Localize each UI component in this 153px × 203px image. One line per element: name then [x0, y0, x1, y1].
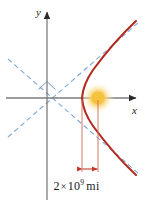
dimension-label: 2×109mi [0, 179, 153, 194]
orbit-figure: x y 2×109mi [0, 0, 153, 203]
dimension-mantissa: 2 [53, 179, 59, 193]
x-axis-label: x [131, 104, 137, 116]
dimension-unit: mi [84, 179, 99, 193]
y-axis-label: y [35, 6, 41, 18]
figure-canvas: x y [0, 0, 153, 203]
dimension-base: 10 [68, 179, 81, 193]
multiplication-sign: × [60, 181, 68, 192]
